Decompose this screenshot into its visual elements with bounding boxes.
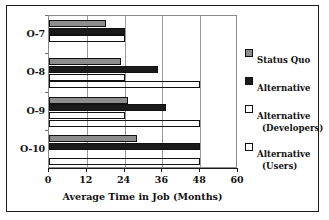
- x-axis-title: Average Time in Job (Months): [48, 191, 237, 202]
- bar: [49, 135, 137, 142]
- legend-item: Alternative(Developers): [245, 104, 319, 133]
- x-axis-tick-label: 48: [193, 174, 206, 185]
- bar: [49, 97, 128, 104]
- bar: [49, 35, 125, 42]
- bar: [49, 58, 121, 65]
- x-axis-tick-label: 24: [117, 174, 130, 185]
- x-axis-tick-label: 0: [45, 174, 52, 185]
- y-axis-label: O-7: [26, 28, 45, 39]
- chart-figure: O-7O-8O-9O-10 Average Time in Job (Month…: [6, 5, 319, 212]
- legend-label: Alternative: [257, 149, 310, 159]
- x-axis-tick-label: 60: [230, 174, 243, 185]
- x-axis-tick: [86, 168, 87, 172]
- x-axis-tick: [48, 168, 49, 172]
- bar: [49, 112, 125, 119]
- x-axis-tick: [237, 168, 238, 172]
- bar-group: [49, 131, 236, 169]
- x-axis-tick-label: 12: [79, 174, 92, 185]
- legend-item: Alternative: [245, 76, 319, 95]
- bar: [49, 120, 200, 127]
- bar-group: [49, 54, 236, 92]
- y-axis-tick: [45, 130, 48, 131]
- y-axis-tick: [45, 15, 48, 16]
- x-axis-tick-label: 36: [155, 174, 168, 185]
- bar: [49, 28, 125, 35]
- legend-sublabel: (Users): [257, 161, 319, 171]
- legend-swatch: [245, 143, 253, 151]
- legend-label: Alternative: [257, 111, 310, 121]
- plot-area: [48, 15, 237, 168]
- y-axis-label: O-10: [20, 143, 45, 154]
- y-axis-label: O-9: [26, 105, 45, 116]
- legend-swatch: [245, 105, 253, 113]
- y-axis-labels: O-7O-8O-9O-10: [7, 15, 45, 168]
- legend-label: Status Quo: [257, 55, 310, 65]
- bar: [49, 66, 158, 73]
- y-axis-tick: [45, 53, 48, 54]
- chart-legend: Status QuoAlternativeAlternative(Develop…: [245, 48, 319, 180]
- bar-group: [49, 93, 236, 131]
- bar: [49, 158, 200, 165]
- legend-sublabel: (Developers): [257, 123, 319, 133]
- legend-swatch: [245, 77, 253, 85]
- bar-group: [49, 16, 236, 54]
- x-axis-tick: [161, 168, 162, 172]
- x-axis-line: [48, 168, 237, 169]
- y-axis-tick: [45, 92, 48, 93]
- bar: [49, 104, 166, 111]
- x-axis-tick: [199, 168, 200, 172]
- legend-item: Alternative(Users): [245, 142, 319, 171]
- x-axis-tick: [124, 168, 125, 172]
- legend-swatch: [245, 49, 253, 57]
- legend-item: Status Quo: [245, 48, 319, 67]
- bar: [49, 74, 125, 81]
- y-axis-label: O-8: [26, 66, 45, 77]
- bar: [49, 81, 200, 88]
- bar: [49, 143, 200, 150]
- bar: [49, 20, 106, 27]
- legend-label: Alternative: [257, 83, 310, 93]
